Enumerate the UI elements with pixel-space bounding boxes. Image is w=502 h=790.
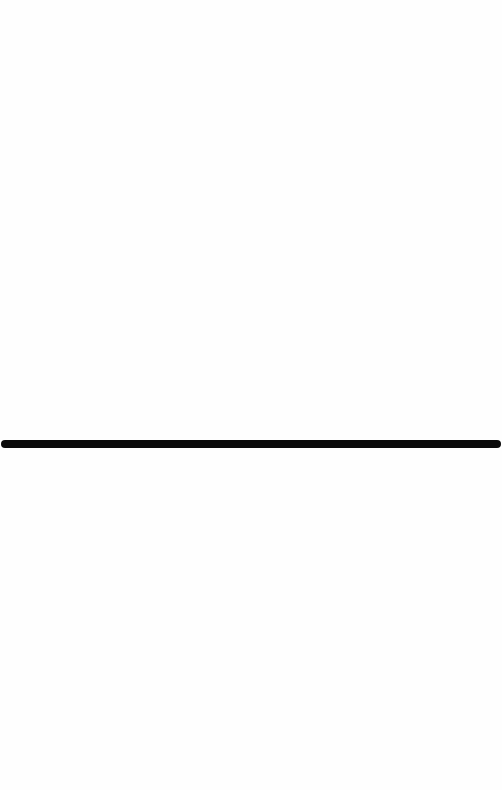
horizontal-divider[interactable]	[1, 440, 501, 448]
bottom-pane	[0, 448, 502, 790]
top-pane	[0, 0, 502, 440]
blank-screen	[0, 0, 502, 790]
